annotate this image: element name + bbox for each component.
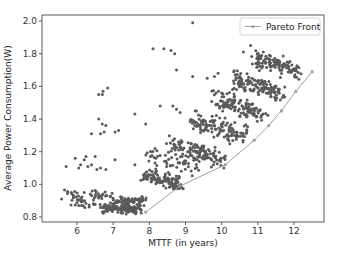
scatter-point — [269, 65, 272, 68]
scatter-point — [168, 186, 171, 189]
scatter-point — [272, 58, 275, 61]
scatter-point — [192, 127, 195, 130]
scatter-point — [238, 75, 241, 78]
scatter-point — [175, 175, 178, 178]
scatter-point — [222, 129, 225, 132]
scatter-point — [78, 198, 81, 201]
scatter-point — [265, 91, 268, 94]
scatter-point — [143, 204, 146, 207]
pareto-point — [224, 163, 227, 166]
scatter-point — [104, 124, 107, 127]
scatter-point — [144, 198, 147, 201]
scatter-point — [228, 98, 231, 101]
scatter-point — [144, 122, 147, 125]
scatter-point — [117, 129, 120, 132]
scatter-point — [94, 194, 97, 197]
scatter-point — [274, 61, 277, 64]
scatter-point — [233, 93, 236, 96]
scatter-point — [214, 128, 217, 131]
scatter-point — [186, 150, 189, 153]
x-tick-label: 7 — [110, 226, 116, 236]
scatter-point — [162, 180, 165, 183]
pareto-point — [280, 109, 283, 112]
scatter-point — [218, 130, 221, 133]
scatter-point — [111, 203, 114, 206]
scatter-point — [238, 79, 241, 82]
scatter-point — [198, 152, 201, 155]
y-axis-ticks: 0.81.01.21.41.61.82.0 — [23, 16, 42, 222]
scatter-point — [165, 160, 168, 163]
scatter-point — [77, 195, 80, 198]
scatter-point — [233, 82, 236, 85]
scatter-point — [145, 177, 148, 180]
scatter-point — [94, 155, 97, 158]
scatter-point — [258, 109, 261, 112]
scatter-point — [256, 55, 259, 58]
scatter-point — [123, 208, 126, 211]
y-tick-label: 1.4 — [23, 114, 38, 124]
scatter-point — [230, 127, 233, 130]
scatter-point — [219, 99, 222, 102]
scatter-point — [280, 72, 283, 75]
pareto-point — [179, 184, 182, 187]
legend-marker-icon — [251, 25, 254, 28]
scatter-point — [123, 200, 126, 203]
scatter-point — [198, 125, 201, 128]
scatter-point — [77, 167, 80, 170]
scatter-point — [171, 183, 174, 186]
scatter-point — [190, 119, 193, 122]
scatter-point — [73, 190, 76, 193]
scatter-point — [205, 152, 208, 155]
scatter-point — [213, 161, 216, 164]
scatter-point — [180, 170, 183, 173]
scatter-point — [202, 158, 205, 161]
scatter-point — [211, 115, 214, 118]
scatter-point — [268, 61, 271, 64]
scatter-point — [246, 72, 249, 75]
scatter-point — [177, 161, 180, 164]
scatter-point — [215, 92, 218, 95]
scatter-point — [82, 204, 85, 207]
scatter-point — [283, 85, 286, 88]
scatter-point — [246, 110, 249, 113]
y-tick-label: 1.8 — [23, 49, 38, 59]
scatter-point — [199, 131, 202, 134]
scatter-point — [205, 123, 208, 126]
scatter-point — [221, 125, 224, 128]
scatter-point — [156, 180, 159, 183]
scatter-point — [60, 198, 63, 201]
scatter-point — [257, 81, 260, 84]
scatter-point — [236, 69, 239, 72]
scatter-point — [278, 92, 281, 95]
scatter-point — [131, 209, 134, 212]
scatter-point — [251, 63, 254, 66]
scatter-point — [165, 165, 168, 168]
scatter-point — [207, 148, 210, 151]
scatter-point — [110, 208, 113, 211]
scatter-point — [217, 72, 220, 75]
scatter-point — [148, 173, 151, 176]
scatter-point — [231, 88, 234, 91]
scatter-point — [231, 139, 234, 142]
scatter-point — [120, 209, 123, 212]
scatter-point — [210, 166, 213, 169]
scatter-point — [290, 63, 293, 66]
scatter-point — [165, 142, 168, 145]
scatter-point — [154, 168, 157, 171]
scatter-point — [218, 151, 221, 154]
scatter-point — [133, 113, 136, 116]
scatter-point — [168, 178, 171, 181]
scatter-point — [279, 76, 282, 79]
scatter-point — [127, 209, 130, 212]
scatter-point — [202, 155, 205, 158]
scatter-point — [191, 174, 194, 177]
scatter-point — [214, 146, 217, 149]
x-tick-label: 6 — [74, 226, 80, 236]
scatter-point — [116, 206, 119, 209]
scatter-point — [175, 166, 178, 169]
pareto-point — [144, 211, 147, 214]
scatter-point — [187, 162, 190, 165]
scatter-point — [132, 201, 135, 204]
scatter-point — [278, 62, 281, 65]
scatter-point — [245, 116, 248, 119]
